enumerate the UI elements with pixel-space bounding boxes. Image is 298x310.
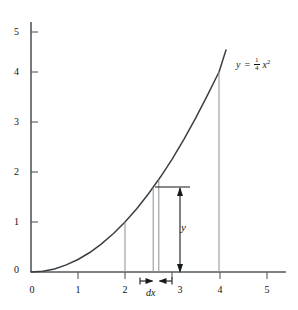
equation-fraction-denominator: 4: [254, 64, 260, 72]
equation-fraction-numerator: 1: [254, 57, 260, 64]
y-tick-label-2: 2: [14, 167, 19, 177]
dx-measure-left-head: [146, 278, 154, 284]
y-tick-label-3: 3: [14, 117, 19, 127]
x-tick-label-0: 0: [30, 285, 35, 295]
equation-y-symbol: y: [236, 59, 240, 70]
y-tick-label-0: 0: [14, 265, 19, 275]
y-tick-label-5: 5: [14, 27, 19, 37]
x-tick-label-3: 3: [178, 285, 183, 295]
y-axis-ticks: [31, 32, 38, 222]
dx-measure-right-head: [159, 278, 167, 284]
x-tick-label-1: 1: [76, 285, 81, 295]
equation-exponent: 2: [267, 58, 270, 65]
x-tick-label-4: 4: [218, 285, 223, 295]
equation-fraction-one-quarter: 1 4: [254, 57, 260, 73]
equation-equals-sign: =: [244, 59, 250, 70]
y-measure-arrow-head-top: [177, 187, 183, 196]
y-height-label: y: [181, 222, 186, 233]
curve-quarter-x-squared: [31, 50, 226, 272]
x-tick-label-5: 5: [265, 285, 270, 295]
figure-container: 5 4 3 2 1 0 0 1 2 3 4 5 y = 1 4 x2 y dx: [0, 0, 298, 310]
plot-area: [0, 0, 298, 310]
y-tick-label-1: 1: [14, 217, 19, 227]
dx-width-label: dx: [146, 288, 155, 298]
equation-x-term: x2: [263, 59, 271, 70]
x-tick-label-2: 2: [123, 285, 128, 295]
equation-label: y = 1 4 x2: [236, 57, 270, 73]
y-tick-label-4: 4: [14, 67, 19, 77]
